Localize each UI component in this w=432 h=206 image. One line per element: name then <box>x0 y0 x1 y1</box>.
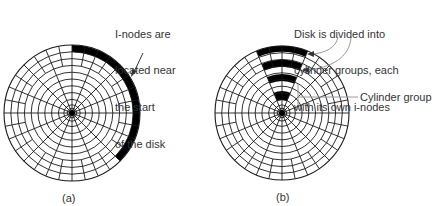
annotation-line: located near <box>115 64 176 76</box>
caption-a: (a) <box>62 192 75 204</box>
annotation-line: Disk is divided into <box>294 28 399 40</box>
annotation-line: of the disk <box>115 138 176 150</box>
inode-annotation-b: Disk is divided into cylinder groups, ea… <box>294 3 399 138</box>
annotation-line: the start <box>115 101 176 113</box>
annotation-line: cylinder groups, each <box>294 64 399 76</box>
caption-b: (b) <box>276 191 289 203</box>
inode-annotation-a: I-nodes are located near the start of th… <box>115 3 176 175</box>
annotation-line: I-nodes are <box>115 28 176 40</box>
cylinder-group-label: Cylinder group <box>360 91 432 103</box>
